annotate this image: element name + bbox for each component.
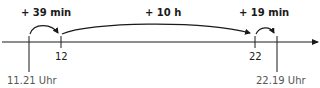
- end-time-label: 22.19 Uhr: [256, 75, 306, 86]
- start-time-label: 11.21 Uhr: [7, 75, 57, 86]
- jump-arc-10h: [62, 24, 250, 34]
- jump-label-39min: + 39 min: [21, 7, 71, 18]
- number-line-diagram: + 39 min + 10 h + 19 min 12 22 11.21 Uhr…: [0, 0, 320, 88]
- jump-label-10h: + 10 h: [145, 7, 181, 18]
- axis-arrowhead-icon: [312, 39, 319, 45]
- tick-label-22: 22: [249, 51, 262, 62]
- jump-label-19min: + 19 min: [239, 7, 289, 18]
- tick-label-12: 12: [55, 51, 68, 62]
- jump-arc-19min: [256, 28, 274, 34]
- jump-arc-39min: [30, 26, 58, 34]
